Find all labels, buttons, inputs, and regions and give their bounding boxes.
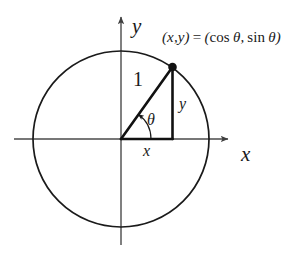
theta-angle-label: θ [147, 112, 155, 128]
x-axis-label: x [241, 144, 250, 165]
coord-cos: cos [210, 29, 230, 45]
horizontal-leg-label: x [143, 143, 150, 159]
coord-sin: sin [247, 29, 265, 45]
unit-circle-figure: y x 1 y x θ (x,y) = (cos θ, sin θ) [0, 0, 306, 254]
vertical-leg-label: y [179, 96, 186, 112]
coord-theta-2: θ [268, 29, 275, 45]
coord-rhs-close: ) [276, 29, 281, 45]
hypotenuse-label: 1 [133, 69, 143, 89]
coord-lhs-y: y [178, 29, 185, 45]
hypotenuse-line [121, 67, 173, 139]
coord-lhs-x: x [167, 29, 174, 45]
circle-point-marker [168, 63, 177, 72]
coord-equals: = [193, 29, 202, 45]
point-coordinates-label: (x,y) = (cos θ, sin θ) [162, 30, 281, 45]
y-axis-label: y [132, 16, 141, 37]
